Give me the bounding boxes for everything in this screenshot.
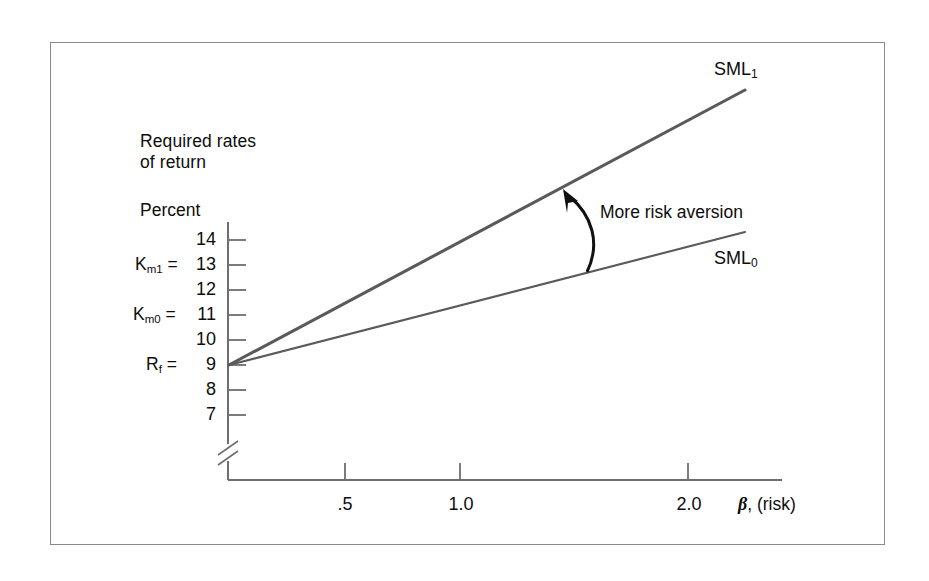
km1-equals: = [168, 254, 178, 274]
rf-subscript: f [159, 363, 162, 375]
y-axis-title-line1: Required rates [140, 131, 256, 152]
more-risk-aversion-annotation: More risk aversion [600, 202, 743, 223]
y-tick-label-14: 14 [186, 229, 216, 250]
sml1-label-name: SML [714, 59, 751, 79]
sml1-line [229, 90, 745, 365]
y-tick-label-13: 13 [186, 254, 216, 275]
sml0-label: SML0 [714, 248, 758, 269]
km1-value-label: Km1 = [135, 254, 178, 275]
x-tick-label-2: 2.0 [676, 494, 701, 515]
sml1-label-subscript: 1 [751, 67, 758, 81]
y-axis-unit-label: Percent [140, 200, 200, 221]
km0-subscript: m0 [145, 313, 161, 325]
y-tick-label-8: 8 [186, 379, 216, 400]
km1-symbol: K [135, 254, 147, 274]
x-axis-title-rest: , (risk) [747, 494, 796, 514]
y-tick-label-11: 11 [186, 304, 216, 325]
sml0-label-subscript: 0 [751, 256, 758, 270]
y-tick-label-12: 12 [186, 279, 216, 300]
x-tick-marks [345, 463, 688, 480]
y-tick-label-7: 7 [186, 404, 216, 425]
rotation-arrow [569, 196, 594, 272]
rf-value-label: Rf = [146, 354, 177, 375]
sml0-label-name: SML [714, 248, 751, 268]
km0-symbol: K [133, 304, 145, 324]
y-tick-marks [228, 240, 246, 415]
x-axis-title: β, (risk) [738, 494, 796, 515]
km1-subscript: m1 [147, 263, 163, 275]
x-tick-label-point5: .5 [337, 494, 352, 515]
x-tick-label-1: 1.0 [448, 494, 473, 515]
y-axis-title-line2: of return [140, 152, 206, 173]
rotation-arrow-head [563, 189, 578, 213]
y-tick-label-9: 9 [186, 354, 216, 375]
sml0-line [229, 232, 745, 365]
km0-value-label: Km0 = [133, 304, 176, 325]
beta-symbol: β [738, 494, 747, 514]
rf-equals: = [167, 354, 177, 374]
figure-container: Required rates of return Percent 14 13 1… [0, 0, 929, 581]
km0-equals: = [166, 304, 176, 324]
sml1-label: SML1 [714, 59, 758, 80]
y-tick-label-10: 10 [186, 329, 216, 350]
rf-symbol: R [146, 354, 159, 374]
